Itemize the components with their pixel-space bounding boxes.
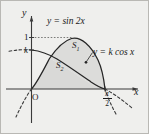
leader-dot-kcos: [85, 61, 88, 64]
y-axis-label: y: [22, 8, 26, 18]
x-tick-label-pi-over-two: π 2: [100, 90, 114, 108]
y-tick-label-k: k: [24, 46, 28, 55]
math-figure: y x 1 k O π 2 y = sin 2x y = k cos x S1 …: [0, 0, 149, 134]
y-axis-arrowhead: [30, 16, 34, 22]
region-s2-subscript: 2: [61, 66, 64, 72]
pi-denominator: 2: [100, 100, 114, 108]
region-s1-subscript: 1: [77, 46, 80, 52]
cosine-curve-equation-label: y = k cos x: [93, 48, 134, 58]
sine-curve-equation-label: y = sin 2x: [47, 17, 85, 27]
region-s1-label: S1: [72, 41, 80, 52]
x-axis-label: x: [134, 87, 138, 97]
pi-numerator: π: [100, 90, 114, 98]
origin-label: O: [32, 93, 39, 102]
sine-curve-dashed-left: [16, 89, 32, 117]
region-s2-label: S2: [56, 61, 64, 72]
y-tick-label-one: 1: [24, 33, 29, 42]
